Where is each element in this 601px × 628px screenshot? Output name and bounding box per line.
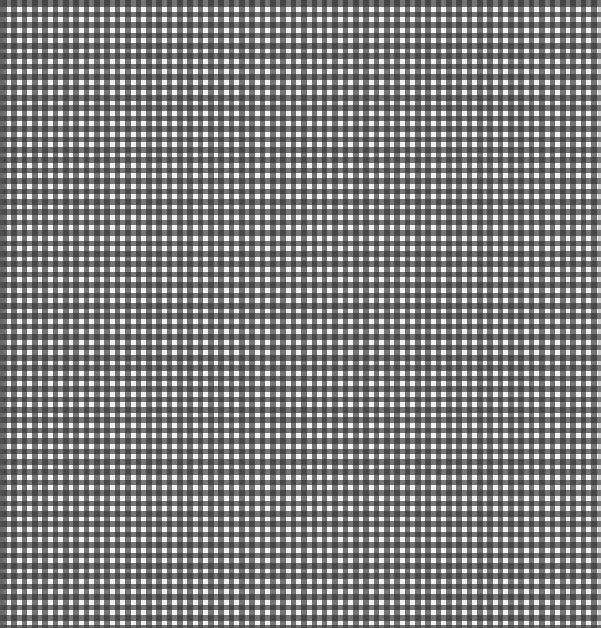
gingham-texture: gingham check fabric texture (0, 0, 601, 628)
left-edge-shading (0, 0, 6, 628)
